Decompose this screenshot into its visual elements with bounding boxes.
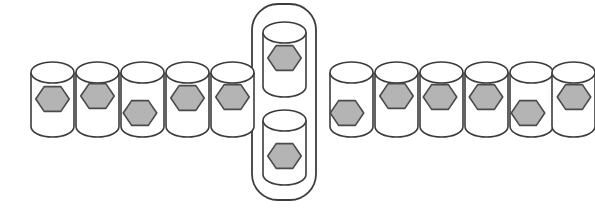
cylinder-10[interactable] bbox=[420, 62, 463, 137]
cylinder-top-ellipse bbox=[330, 62, 373, 83]
cylinder-13[interactable] bbox=[552, 62, 595, 137]
cylinder-1[interactable] bbox=[31, 62, 74, 137]
cylinder-top-ellipse bbox=[121, 62, 164, 83]
hexagon-item[interactable] bbox=[268, 46, 301, 71]
hexagon-item[interactable] bbox=[123, 101, 156, 126]
hexagon-item[interactable] bbox=[81, 84, 114, 109]
cylinder-3[interactable] bbox=[121, 62, 164, 137]
cylinder-top-ellipse bbox=[510, 62, 553, 83]
scene-canvas bbox=[0, 0, 595, 208]
cylinder-7[interactable] bbox=[263, 110, 306, 185]
hexagon-item[interactable] bbox=[423, 85, 456, 110]
cylinder-top-ellipse bbox=[420, 62, 463, 83]
hexagon-item[interactable] bbox=[380, 84, 413, 109]
hexagon-item[interactable] bbox=[171, 86, 204, 111]
hexagon-item[interactable] bbox=[330, 101, 363, 126]
cylinder-9[interactable] bbox=[375, 62, 418, 137]
hexagon-item[interactable] bbox=[216, 85, 249, 110]
cylinder-6[interactable] bbox=[263, 22, 306, 97]
cylinder-top-ellipse bbox=[465, 62, 508, 83]
cylinder-top-ellipse bbox=[166, 62, 209, 83]
cylinder-5[interactable] bbox=[211, 62, 254, 137]
hexagon-item[interactable] bbox=[268, 144, 301, 169]
scene-svg bbox=[0, 0, 595, 208]
cylinder-11[interactable] bbox=[465, 62, 508, 137]
cylinder-2[interactable] bbox=[76, 62, 119, 137]
cylinder-top-ellipse bbox=[263, 22, 306, 43]
cylinder-12[interactable] bbox=[510, 62, 553, 137]
cylinder-top-ellipse bbox=[76, 62, 119, 83]
cylinder-top-ellipse bbox=[263, 110, 306, 131]
hexagon-item[interactable] bbox=[511, 101, 544, 126]
cylinder-8[interactable] bbox=[330, 62, 373, 137]
hexagon-item[interactable] bbox=[469, 85, 502, 110]
hexagon-item[interactable] bbox=[557, 85, 590, 110]
cylinder-top-ellipse bbox=[31, 62, 74, 83]
cylinder-top-ellipse bbox=[375, 62, 418, 83]
cylinder-4[interactable] bbox=[166, 62, 209, 137]
cylinder-top-ellipse bbox=[552, 62, 595, 83]
hexagon-item[interactable] bbox=[36, 87, 69, 112]
cylinder-top-ellipse bbox=[211, 62, 254, 83]
